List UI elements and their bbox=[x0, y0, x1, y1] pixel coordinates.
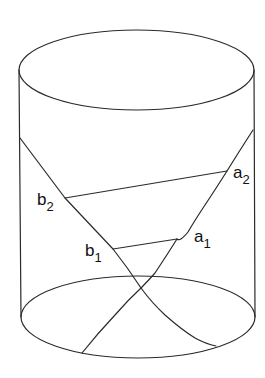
label-a2: a2 bbox=[233, 163, 250, 187]
label-b1: b1 bbox=[85, 241, 102, 265]
falling-curve bbox=[20, 138, 216, 346]
left-side-line bbox=[19, 70, 21, 317]
chord-b1-a1 bbox=[113, 239, 177, 249]
label-b2: b2 bbox=[37, 190, 54, 214]
bottom-ellipse bbox=[21, 276, 255, 358]
label-a1: a1 bbox=[194, 227, 211, 251]
rising-curve bbox=[82, 130, 253, 353]
right-side-line bbox=[254, 70, 255, 317]
chord-b2-a2 bbox=[65, 171, 227, 198]
cylinder-diagram: b2 a2 b1 a1 bbox=[0, 0, 265, 378]
top-ellipse bbox=[19, 30, 254, 110]
